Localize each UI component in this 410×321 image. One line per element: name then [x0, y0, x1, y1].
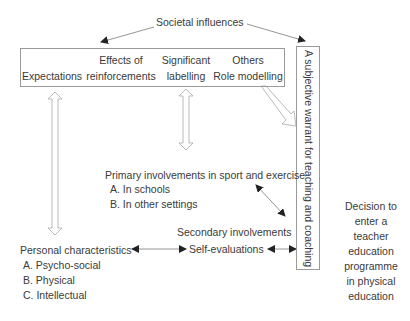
self-evaluations-label: Self-evaluations [189, 243, 264, 255]
influence-expectations: Expectations [22, 70, 82, 82]
personal-characteristics-item: C. Intellectual [23, 289, 87, 301]
societal-to-warrant-arrow [247, 24, 305, 41]
decision-line: enter a [335, 215, 407, 230]
decision-line: education [335, 290, 407, 305]
influence-reinforcements: Effects of reinforcements [86, 54, 156, 82]
decision-text: Decision to enter a teacher education pr… [335, 200, 407, 305]
decision-line: teacher [335, 230, 407, 245]
influence-label-line2: labelling [158, 70, 214, 82]
primary-involvements-title: Primary involvements in sport and exerci… [105, 169, 305, 181]
hollow-double-arrow-left [48, 92, 62, 235]
influence-label-line2: Role modelling [212, 70, 284, 82]
subjective-warrant-label: A subjective warrant for teaching and co… [303, 50, 315, 267]
influence-label: Expectations [22, 70, 82, 82]
secondary-involvements-label: Secondary involvements [177, 226, 291, 238]
decision-line: Decision to [335, 200, 407, 215]
decision-line: education [335, 245, 407, 260]
influence-label-line1: Significant [158, 54, 214, 66]
primary-involvements-item: B. In other settings [110, 198, 198, 210]
influence-role-modelling: Others Role modelling [212, 54, 284, 82]
primary-involvements-item: A. In schools [110, 183, 170, 195]
influence-label-line1: Effects of [86, 54, 156, 66]
decision-line: programme [335, 260, 407, 275]
primary-secondary-arrow [256, 185, 285, 216]
influence-label-line1: Others [212, 54, 284, 66]
societal-to-box-arrow [101, 27, 154, 42]
personal-characteristics-item: A. Psycho-social [23, 259, 101, 271]
societal-influences-label: Societal influences [156, 16, 244, 28]
decision-line: in physical [335, 275, 407, 290]
influence-label-line2: reinforcements [86, 70, 156, 82]
influence-significant-labelling: Significant labelling [158, 54, 214, 82]
hollow-arrow-to-warrant [261, 86, 296, 126]
personal-characteristics-title: Personal characteristics [20, 244, 131, 256]
hollow-double-arrow-middle [179, 89, 193, 150]
personal-characteristics-item: B. Physical [23, 274, 75, 286]
